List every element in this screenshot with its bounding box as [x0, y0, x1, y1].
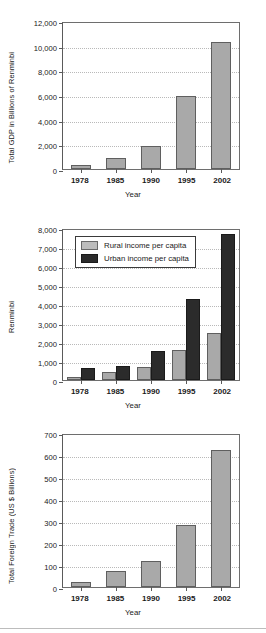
- legend-swatch-rural: [81, 241, 98, 250]
- bar-1985: [106, 158, 126, 169]
- y-axis-tick-label: 0: [53, 585, 57, 594]
- x-axis-label-1995: 1995: [169, 387, 205, 396]
- x-axis-tick: [186, 587, 187, 591]
- x-axis-label-1985: 1985: [98, 594, 134, 603]
- x-axis-tick: [186, 380, 187, 384]
- x-axis-tick: [221, 587, 222, 591]
- x-axis-label-1990: 1990: [133, 176, 169, 185]
- chart-gdp: Total GDP in Billions of Renminbi 02,000…: [0, 0, 266, 215]
- bar-1995-urban: [186, 299, 200, 380]
- bar-1990: [141, 561, 161, 587]
- bar-group-container: [63, 435, 239, 587]
- y-axis-tick-label: 6,000: [38, 264, 57, 273]
- bar-1985-rural: [102, 372, 116, 380]
- x-axis-tick: [221, 380, 222, 384]
- chart-gdp-plot-area: 02,0004,0006,0008,00010,00012,000: [62, 22, 240, 170]
- bar-group-container: [63, 23, 239, 169]
- legend-swatch-urban: [81, 254, 98, 263]
- chart-gdp-x-axis-title: Year: [0, 190, 266, 199]
- x-axis-tick: [116, 380, 117, 384]
- y-axis-tick-label: 300: [44, 519, 57, 528]
- y-axis-tick-label: 0: [53, 167, 57, 176]
- legend-item-rural: Rural income per capita: [81, 241, 189, 250]
- bar-1995: [176, 525, 196, 587]
- bar-group-2002: [204, 435, 239, 587]
- y-axis-tick-label: 400: [44, 497, 57, 506]
- bar-group-1995: [169, 435, 204, 587]
- y-axis-tick-label: 12,000: [34, 19, 57, 28]
- y-axis-tick-label: 600: [44, 453, 57, 462]
- chart-trade: Total Foreign Trade (US $ Billions) 0100…: [0, 420, 266, 633]
- x-axis-tick: [221, 169, 222, 173]
- y-axis-tick-label: 8,000: [38, 226, 57, 235]
- bar-1995-rural: [172, 350, 186, 380]
- x-axis-tick: [151, 587, 152, 591]
- bar-group-1995: [169, 23, 204, 169]
- x-axis-label-1985: 1985: [98, 176, 134, 185]
- x-axis-labels: 19781985199019952002: [62, 387, 240, 396]
- y-axis-tick: [59, 589, 63, 590]
- x-axis-label-1990: 1990: [133, 594, 169, 603]
- y-axis-tick-label: 3,000: [38, 321, 57, 330]
- chart-trade-plot-area: 0100200300400500600700: [62, 434, 240, 588]
- y-axis-tick-label: 10,000: [34, 43, 57, 52]
- bar-group-1978: [63, 23, 98, 169]
- chart-income-y-axis-label: Renminbi: [4, 215, 18, 420]
- y-axis-tick-label: 4,000: [38, 302, 57, 311]
- legend-label-urban: Urban income per capita: [104, 254, 189, 263]
- x-axis-label-1985: 1985: [98, 387, 134, 396]
- y-axis-tick-label: 700: [44, 431, 57, 440]
- bar-1985-urban: [116, 366, 130, 380]
- bar-1985: [106, 571, 126, 587]
- y-axis-tick-label: 2,000: [38, 142, 57, 151]
- x-axis-label-1995: 1995: [169, 594, 205, 603]
- y-axis-tick-label: 8,000: [38, 68, 57, 77]
- x-axis-label-1978: 1978: [62, 176, 98, 185]
- x-axis-label-1995: 1995: [169, 176, 205, 185]
- y-axis-tick-label: 100: [44, 563, 57, 572]
- x-axis-label-2002: 2002: [204, 387, 240, 396]
- y-axis-tick-label: 4,000: [38, 117, 57, 126]
- y-axis-tick-label: 500: [44, 475, 57, 484]
- bar-group-2002: [204, 230, 239, 380]
- y-axis-tick-label: 6,000: [38, 93, 57, 102]
- y-axis-tick-label: 0: [53, 378, 57, 387]
- bar-group-1990: [133, 435, 168, 587]
- chart-income-x-axis-title: Year: [0, 401, 266, 410]
- x-axis-tick: [116, 169, 117, 173]
- y-axis-tick-label: 7,000: [38, 245, 57, 254]
- y-axis-tick-label: 1,000: [38, 359, 57, 368]
- x-axis-label-1978: 1978: [62, 594, 98, 603]
- bar-1978-rural: [67, 377, 81, 380]
- bottom-divider: [0, 628, 266, 629]
- legend-item-urban: Urban income per capita: [81, 254, 189, 263]
- bar-group-2002: [204, 23, 239, 169]
- bar-1990-urban: [151, 351, 165, 380]
- chart-trade-x-axis-title: Year: [0, 608, 266, 617]
- x-axis-tick: [81, 587, 82, 591]
- chart-gdp-y-axis-label: Total GDP in Billions of Renminbi: [4, 0, 18, 215]
- chart-income-plot-area: Rural income per capita Urban income per…: [62, 229, 240, 381]
- chart-trade-y-axis-label: Total Foreign Trade (US $ Billions): [4, 420, 18, 633]
- bar-1978-urban: [81, 368, 95, 380]
- bar-1990-rural: [137, 367, 151, 380]
- bar-group-1978: [63, 435, 98, 587]
- y-axis-tick-label: 200: [44, 541, 57, 550]
- x-axis-tick: [116, 587, 117, 591]
- bar-2002: [211, 450, 231, 587]
- bar-1990: [141, 146, 161, 169]
- x-axis-tick: [81, 169, 82, 173]
- y-axis-tick-label: 2,000: [38, 340, 57, 349]
- bar-group-1985: [98, 435, 133, 587]
- bar-2002: [211, 42, 231, 169]
- x-axis-labels: 19781985199019952002: [62, 176, 240, 185]
- x-axis-tick: [81, 380, 82, 384]
- x-axis-label-1978: 1978: [62, 387, 98, 396]
- x-axis-tick: [151, 380, 152, 384]
- y-axis-tick: [59, 171, 63, 172]
- chart-income: Renminbi Rural income per capita Urban i…: [0, 215, 266, 420]
- x-axis-label-2002: 2002: [204, 176, 240, 185]
- x-axis-tick: [151, 169, 152, 173]
- bar-2002-urban: [221, 234, 235, 380]
- chart-income-legend: Rural income per capita Urban income per…: [75, 236, 196, 268]
